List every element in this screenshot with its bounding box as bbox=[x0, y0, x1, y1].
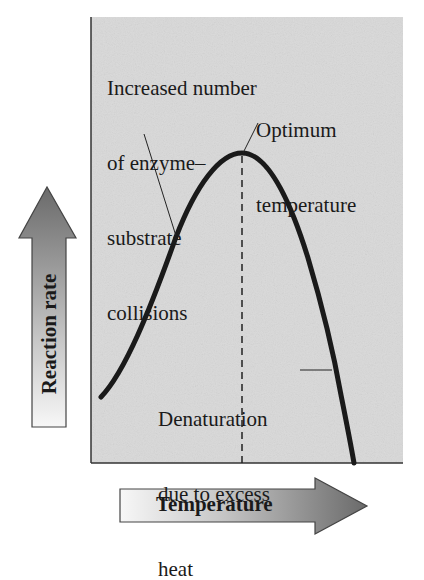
collisions-line-2: of enzyme– bbox=[107, 151, 257, 176]
optimum-line-2: temperature bbox=[256, 193, 356, 218]
collisions-line-3: substrate bbox=[107, 226, 257, 251]
y-axis-label: Reaction rate bbox=[37, 274, 62, 395]
denaturation-line-3: heat bbox=[158, 557, 270, 580]
denaturation-annotation: Denaturation due to excess heat bbox=[158, 357, 270, 580]
optimum-annotation: Optimum temperature bbox=[256, 68, 356, 243]
collisions-line-1: Increased number bbox=[107, 76, 257, 101]
denaturation-line-1: Denaturation bbox=[158, 407, 270, 432]
x-axis-label: Temperature bbox=[156, 492, 273, 517]
collisions-line-4: collisions bbox=[107, 301, 257, 326]
optimum-line-1: Optimum bbox=[256, 118, 356, 143]
collisions-annotation: Increased number of enzyme– substrate co… bbox=[107, 26, 257, 351]
